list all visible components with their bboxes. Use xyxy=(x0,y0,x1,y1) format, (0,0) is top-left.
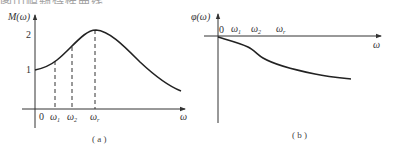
svg-text:1: 1 xyxy=(238,29,241,35)
origin-label: 0 xyxy=(39,111,44,122)
amplitude-plot: M(ω) 2 1 0 ω 1 ω 2 ω r ω ( a ) xyxy=(7,11,187,144)
svg-text:2: 2 xyxy=(74,117,77,123)
x-tick-omega2: ω 2 xyxy=(67,111,77,123)
y-axis-label: M(ω) xyxy=(7,11,31,23)
caption-b: ( b ) xyxy=(292,130,307,140)
svg-text:ω: ω xyxy=(50,111,57,122)
figure-canvas: M(ω) 2 1 0 ω 1 ω 2 ω r ω ( a ) φ(ω) 0 xyxy=(0,0,393,157)
svg-text:ω: ω xyxy=(90,111,97,122)
svg-text:2: 2 xyxy=(258,29,261,35)
x-tick-omega1: ω 1 xyxy=(231,23,241,35)
y-tick-2: 2 xyxy=(26,29,31,40)
x-axis-label: ω xyxy=(373,39,380,50)
svg-text:ω: ω xyxy=(231,23,238,34)
y-axis-label: φ(ω) xyxy=(191,11,211,23)
svg-text:1: 1 xyxy=(57,117,60,123)
amplitude-curve xyxy=(35,30,181,91)
x-tick-omega-r: ω r xyxy=(276,23,286,35)
phase-curve xyxy=(218,37,351,79)
svg-text:r: r xyxy=(283,29,286,35)
caption-a: ( a ) xyxy=(92,134,107,144)
phase-plot: φ(ω) 0 ω 1 ω 2 ω r ω ( b ) xyxy=(191,11,381,140)
x-tick-omega-r: ω r xyxy=(90,111,100,123)
x-axis-label: ω xyxy=(180,111,187,122)
x-tick-omega1: ω 1 xyxy=(50,111,60,123)
y-tick-1: 1 xyxy=(26,64,31,75)
svg-text:ω: ω xyxy=(276,23,283,34)
x-tick-omega2: ω 2 xyxy=(251,23,261,35)
svg-text:r: r xyxy=(97,117,100,123)
svg-text:ω: ω xyxy=(67,111,74,122)
origin-label: 0 xyxy=(219,24,224,35)
svg-text:ω: ω xyxy=(251,23,258,34)
